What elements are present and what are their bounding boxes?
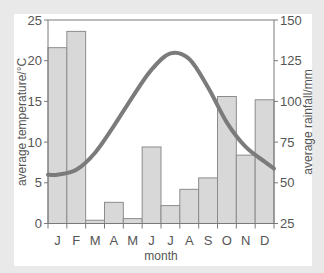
rainfall-bar — [236, 155, 255, 223]
left-tick-label: 20 — [28, 53, 42, 68]
left-tick-label: 15 — [28, 94, 42, 109]
left-tick-label: 10 — [28, 135, 42, 150]
left-axis-title: average temperature/°C — [15, 58, 29, 187]
rainfall-bar — [218, 97, 237, 224]
rainfall-bar — [199, 178, 218, 224]
rainfall-bar — [142, 147, 161, 224]
left-tick-label: 25 — [28, 13, 42, 28]
month-label: D — [260, 233, 269, 248]
month-label: M — [90, 233, 101, 248]
left-tick-label: 0 — [35, 216, 42, 231]
right-axis-title: average rainfall/mm — [301, 69, 315, 174]
month-label: F — [72, 233, 80, 248]
rainfall-bar — [123, 219, 142, 224]
month-label: J — [167, 233, 174, 248]
rainfall-bar — [67, 31, 86, 223]
month-label: A — [110, 233, 119, 248]
month-label: O — [222, 233, 232, 248]
right-tick-label: 25 — [280, 216, 294, 231]
right-tick-label: 75 — [280, 135, 294, 150]
right-axis-ticks: 255075100125150 — [274, 13, 302, 232]
right-tick-label: 150 — [280, 13, 302, 28]
right-tick-label: 100 — [280, 94, 302, 109]
x-axis-ticks: JFMAMJJASOND — [48, 224, 274, 249]
rainfall-bar — [48, 48, 67, 224]
climate-chart: 0510152025 255075100125150 JFMAMJJASOND … — [0, 0, 324, 273]
x-axis-title: month — [144, 249, 177, 263]
right-tick-label: 125 — [280, 53, 302, 68]
month-label: A — [185, 233, 194, 248]
month-label: M — [127, 233, 138, 248]
month-label: N — [241, 233, 250, 248]
rainfall-bar — [161, 206, 180, 224]
month-label: J — [148, 233, 155, 248]
left-axis-ticks: 0510152025 — [28, 13, 48, 232]
month-label: S — [204, 233, 213, 248]
rainfall-bar — [105, 202, 124, 223]
rainfall-bar — [180, 189, 199, 223]
left-tick-label: 5 — [35, 175, 42, 190]
right-tick-label: 50 — [280, 175, 294, 190]
month-label: J — [54, 233, 61, 248]
